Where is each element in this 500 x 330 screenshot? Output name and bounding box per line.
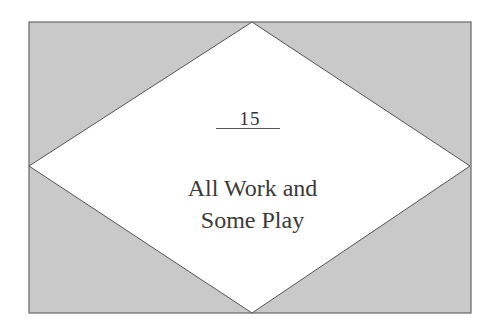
chapter-title: All Work and Some Play (120, 172, 385, 236)
chapter-title-line-1: All Work and (120, 172, 385, 204)
chapter-title-line-2: Some Play (120, 204, 385, 236)
chapter-opener-frame (0, 0, 500, 330)
chapter-number: 15 (200, 108, 300, 130)
chapter-number-rule (216, 128, 280, 129)
